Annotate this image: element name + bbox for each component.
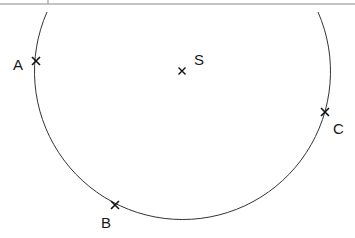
label-a: A — [13, 56, 23, 73]
label-s: S — [194, 51, 204, 68]
point-s: S — [179, 51, 205, 75]
circle-arc — [35, 12, 331, 220]
circle-diagram: A S C B — [0, 0, 355, 238]
label-c: C — [333, 120, 344, 137]
label-b: B — [101, 214, 111, 231]
point-c: C — [321, 108, 344, 137]
point-b: B — [101, 201, 119, 231]
cross-mark-icon — [179, 68, 186, 75]
cross-mark-icon — [321, 108, 329, 116]
point-a: A — [13, 56, 40, 73]
cross-mark-icon — [32, 57, 40, 65]
